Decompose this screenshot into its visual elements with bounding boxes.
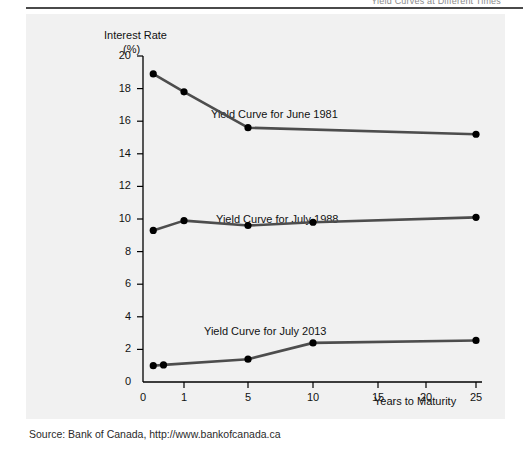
series-line-0 — [153, 74, 476, 134]
running-head: Yield Curves at Different Times — [371, 0, 501, 4]
x-tick-label: 1 — [173, 391, 195, 403]
y-tick-label: 12 — [109, 179, 131, 191]
series-point — [472, 337, 479, 344]
x-tick-label: 20 — [415, 391, 437, 403]
y-tick-label: 8 — [109, 245, 131, 257]
series-point — [472, 131, 479, 138]
series-point — [309, 219, 316, 226]
series-point — [244, 222, 251, 229]
series-point — [150, 227, 157, 234]
y-tick-label: 18 — [109, 82, 131, 94]
y-tick-label: 6 — [109, 277, 131, 289]
page-top-rule — [26, 7, 523, 9]
chart-series — [150, 70, 480, 369]
y-tick-label: 4 — [109, 310, 131, 322]
chart-plot — [26, 14, 505, 419]
series-point — [160, 361, 167, 368]
series-point — [180, 217, 187, 224]
figure-source: Source: Bank of Canada, http://www.banko… — [29, 428, 281, 440]
series-point — [244, 124, 251, 131]
series-point — [472, 214, 479, 221]
series-point — [150, 70, 157, 77]
y-tick-label: 0 — [109, 375, 131, 387]
x-tick-label: 0 — [132, 391, 154, 403]
y-tick-label: 20 — [109, 49, 131, 61]
figure-panel: Interest Rate (%) Years to Maturity Yiel… — [26, 14, 505, 419]
y-tick-label: 2 — [109, 342, 131, 354]
series-point — [244, 356, 251, 363]
y-tick-label: 16 — [109, 114, 131, 126]
x-tick-label: 25 — [465, 391, 487, 403]
x-tick-label: 15 — [367, 391, 389, 403]
series-point — [150, 362, 157, 369]
series-point — [180, 88, 187, 95]
x-tick-label: 5 — [237, 391, 259, 403]
series-point — [309, 339, 316, 346]
x-tick-label: 10 — [302, 391, 324, 403]
y-tick-label: 14 — [109, 147, 131, 159]
y-tick-label: 10 — [109, 212, 131, 224]
